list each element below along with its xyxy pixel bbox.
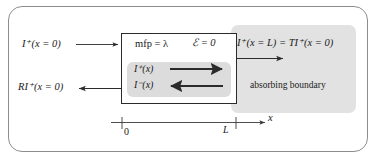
- forward-flux-label: I⁺(x): [134, 64, 153, 74]
- reflected-intensity-label: RI⁺(x = 0): [18, 82, 63, 93]
- mean-free-path-label: mfp = λ: [135, 39, 168, 50]
- axis-tick-label-L: L: [223, 125, 229, 135]
- transmitted-intensity-label: I⁺(x = L) = TI⁺(x = 0): [237, 38, 333, 49]
- electric-field-label: ℰ = 0: [192, 38, 216, 49]
- figure-canvas: I⁺(x = 0) RI⁺(x = 0) mfp = λ ℰ = 0 I⁺(x)…: [0, 0, 379, 161]
- absorbing-boundary-label: absorbing boundary: [250, 81, 326, 91]
- axis-name-label: x: [268, 113, 273, 124]
- axis-tick-label-0: 0: [124, 127, 129, 137]
- backward-flux-label: I⁻(x): [134, 80, 153, 90]
- incident-intensity-label: I⁺(x = 0): [22, 39, 61, 50]
